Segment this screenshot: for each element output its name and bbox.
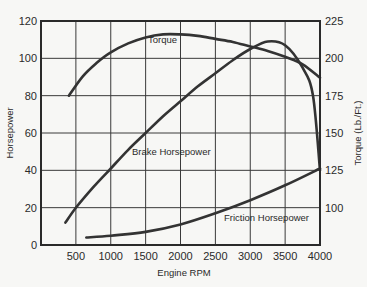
y-tick-label: 20	[25, 202, 37, 214]
x-tick-label: 3000	[238, 250, 262, 262]
brake-horsepower-label: Brake Horsepower	[132, 146, 211, 157]
friction-horsepower-label: Friction Horsepower	[224, 212, 309, 223]
y-tick-label: 40	[25, 164, 37, 176]
y-tick-label: 0	[31, 239, 37, 251]
y2-tick-label: 100	[325, 202, 343, 214]
y2-tick-label: 175	[325, 90, 343, 102]
brake-horsepower-line	[65, 41, 320, 222]
y-tick-label: 100	[19, 52, 37, 64]
x-tick-label: 2000	[168, 250, 192, 262]
y-tick-label: 120	[19, 15, 37, 27]
series-lines	[65, 34, 320, 237]
x-tick-label: 4000	[308, 250, 332, 262]
x-tick-label: 1500	[133, 250, 157, 262]
y-tick-label: 60	[25, 127, 37, 139]
x-tick-label: 3500	[273, 250, 297, 262]
y-axis-right-ticks: 100125150175200225	[325, 15, 343, 214]
engine-performance-chart: 020406080100120 100125150175200225 50010…	[0, 0, 367, 287]
y-axis-left-title: Horsepower	[4, 107, 15, 158]
y-axis-left-ticks: 020406080100120	[19, 15, 37, 251]
y2-tick-label: 200	[325, 52, 343, 64]
torque-label: Torque	[148, 34, 177, 45]
x-tick-label: 1000	[99, 250, 123, 262]
y2-tick-label: 225	[325, 15, 343, 27]
y-tick-label: 80	[25, 90, 37, 102]
x-axis-title: Engine RPM	[157, 267, 210, 278]
x-axis-ticks: 5001000150020002500300035004000	[67, 250, 333, 262]
y2-tick-label: 125	[325, 164, 343, 176]
x-tick-label: 500	[67, 250, 85, 262]
y2-tick-label: 150	[325, 127, 343, 139]
x-tick-label: 2500	[203, 250, 227, 262]
y-axis-right-title: Torque (Lb./Ft.)	[352, 101, 363, 166]
